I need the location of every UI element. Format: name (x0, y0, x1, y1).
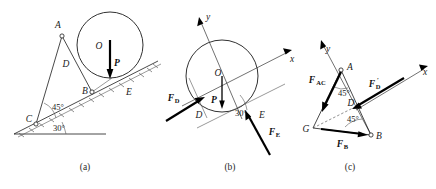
joint-A-a (60, 34, 64, 38)
label-force-D-prime-sub-c: D (376, 83, 381, 90)
panel-c: y x A (303, 40, 428, 173)
label-angle-45-A-c: 45° (338, 88, 350, 98)
label-point-C-a: C (26, 114, 33, 124)
panel-a: A B C D E O P 45° 30° (a) (14, 12, 161, 173)
axis-x-label-c: x (422, 67, 428, 77)
label-force-AC-sub-c: AC (316, 79, 326, 86)
label-force-E-symbol-b: F (268, 127, 276, 137)
force-B-vector-c (321, 129, 362, 134)
label-point-O-a: O (96, 41, 103, 51)
label-force-E-sub-b: E (276, 131, 280, 138)
figure-canvas: A B C D E O P 45° 30° (a) y x (0, 0, 436, 189)
label-point-B-c: B (376, 131, 382, 141)
caption-a: (a) (80, 162, 91, 173)
label-point-A-c: A (346, 62, 353, 72)
label-force-D-sub-b: D (175, 97, 180, 104)
label-angle-30-b: 30° (235, 108, 247, 118)
force-E-vector-b (248, 115, 270, 155)
label-point-E-a: E (125, 87, 132, 97)
label-point-B-a: B (82, 86, 88, 96)
label-force-D-symbol-b: F (167, 93, 175, 103)
label-point-D-c: D (347, 98, 355, 108)
label-weight-a: P (114, 58, 120, 68)
caption-b: (b) (224, 162, 235, 173)
incline-line-b (197, 84, 285, 128)
label-angle-45-a: 45° (52, 102, 64, 112)
label-force-D-prime-mark-c: ′ (377, 76, 379, 83)
label-force-B-c: F B (336, 139, 349, 150)
label-force-E-b: F E (268, 127, 280, 138)
label-force-AC-symbol-c: F (308, 75, 316, 85)
joint-A-c (339, 68, 343, 72)
axis-x-line-c (356, 69, 424, 110)
label-weight-b: P (211, 95, 217, 105)
label-angle-30-a: 30° (53, 123, 65, 133)
member-A-B-c (341, 70, 371, 135)
axis-y-label-c: y (325, 44, 331, 54)
joint-B-c (369, 133, 373, 137)
force-AC-arrowhead-c (322, 101, 329, 112)
label-point-D-a: D (62, 59, 70, 69)
label-point-E-b: E (258, 110, 265, 120)
panel-b: y x O D E P F (166, 12, 295, 173)
label-force-D-prime-symbol-c: F (368, 79, 376, 89)
label-force-AC-c: F AC (308, 75, 326, 86)
label-force-D-prime-c: F D ′ (368, 76, 381, 90)
axis-y-label-b: y (205, 12, 211, 22)
label-force-D-b: F D (167, 93, 180, 104)
label-point-D-b: D (195, 110, 203, 120)
force-D-prime-vector-c (357, 78, 404, 106)
axis-x-label-b: x (289, 54, 295, 64)
physics-figure: A B C D E O P 45° 30° (a) y x (0, 0, 436, 189)
label-point-A-a: A (54, 20, 61, 30)
axis-y-arrow-b (197, 17, 203, 26)
incline-surface-edge-a (18, 64, 161, 137)
label-force-B-sub-c: B (344, 143, 349, 150)
joint-C-a (34, 122, 38, 126)
joint-B-a (90, 90, 94, 94)
label-force-B-symbol-c: F (336, 139, 344, 149)
label-point-G-c: G (303, 124, 310, 134)
weight-arrowhead-b (219, 100, 225, 109)
caption-c: (c) (345, 162, 356, 173)
label-point-O-b: O (215, 68, 222, 78)
link-B-contact-a (92, 78, 112, 92)
label-angle-45-B-c: 45° (347, 114, 359, 124)
